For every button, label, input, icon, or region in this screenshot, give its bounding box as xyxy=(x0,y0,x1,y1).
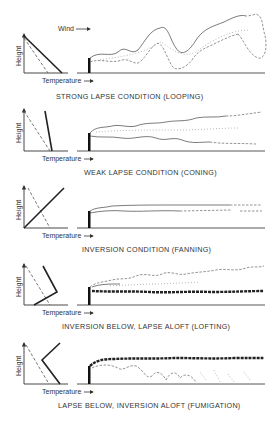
environmental-inversion-line xyxy=(24,188,64,228)
height-axis-label: Height xyxy=(15,200,23,220)
temperature-profile-graph: Height Temperature xyxy=(15,343,93,396)
smokestack xyxy=(88,211,91,228)
plume-scene xyxy=(77,205,265,228)
temperature-profile-graph: Height Temperature xyxy=(15,186,93,240)
plume-scene xyxy=(77,358,265,384)
plume-downward-mixing xyxy=(92,365,196,382)
panel-caption: LAPSE BELOW, INVERSION ALOFT (FUMIGATION… xyxy=(58,401,241,410)
panel-looping: Height Temperature STRONG LAPSE CONDITIO… xyxy=(15,14,266,101)
panel-lofting: Height Temperature INVERSION BELOW, LAPS… xyxy=(15,264,265,331)
plume-lower-edge-dashed xyxy=(180,210,262,211)
panel-fumigation: Height Temperature LAPSE BELOW, INVERSIO… xyxy=(15,343,265,410)
plume-loop xyxy=(238,14,266,58)
height-axis-label: Height xyxy=(15,277,23,297)
panel-caption: STRONG LAPSE CONDITION (LOOPING) xyxy=(56,92,203,101)
temperature-profile-graph: Height Temperature xyxy=(15,109,93,163)
smokestack xyxy=(88,58,91,73)
plume-behavior-diagram: Wind Height Temperature STRONG LAPSE CON… xyxy=(0,0,280,422)
plume-rise xyxy=(92,284,120,287)
temperature-axis-label: Temperature xyxy=(42,155,81,163)
panel-caption: WEAK LAPSE CONDITION (CONING) xyxy=(84,168,217,177)
environmental-profile-line xyxy=(42,343,60,384)
environmental-profile-line xyxy=(34,266,57,305)
smokestack xyxy=(88,287,91,305)
plume-scene xyxy=(77,266,265,305)
plume-scene xyxy=(77,14,266,73)
wind-indicator: Wind xyxy=(58,25,90,32)
smokestack xyxy=(88,366,91,384)
panel-coning: Height Temperature WEAK LAPSE CONDITION … xyxy=(15,109,265,177)
height-axis-label: Height xyxy=(15,356,23,376)
temperature-profile-graph: Height Temperature xyxy=(15,264,93,317)
temperature-axis-label: Temperature xyxy=(42,388,81,396)
plume-interior xyxy=(100,30,250,60)
panel-caption: INVERSION BELOW, LAPSE ALOFT (LOFTING) xyxy=(62,322,230,331)
panel-fanning: Height Temperature INVERSION CONDITION (… xyxy=(15,186,265,254)
panel-caption: INVERSION CONDITION (FANNING) xyxy=(82,245,211,254)
plume-upper-edge xyxy=(90,15,246,58)
temperature-profile-graph: Height Temperature xyxy=(15,34,93,85)
plume-upper-edge xyxy=(90,116,226,133)
plume-upper-boundary xyxy=(90,358,264,366)
plume-upper-edge-dashed xyxy=(226,112,262,116)
plume-interior xyxy=(110,282,200,286)
plume-scene xyxy=(77,112,265,151)
plume-ground-fumigation xyxy=(200,370,250,382)
wind-label: Wind xyxy=(58,25,74,32)
plume-lower-boundary xyxy=(92,291,264,292)
temperature-axis-label: Temperature xyxy=(42,232,81,240)
adiabatic-lapse-line xyxy=(28,188,50,228)
temperature-axis-label: Temperature xyxy=(42,77,81,85)
plume-lower-edge xyxy=(90,211,180,213)
height-axis-label: Height xyxy=(15,123,23,143)
temperature-axis-label: Temperature xyxy=(42,309,81,317)
plume-lower-edge-dashed xyxy=(210,142,256,144)
plume-lower-edge xyxy=(90,136,210,143)
plume-interior xyxy=(96,128,240,132)
environmental-lapse-line xyxy=(24,36,62,73)
height-axis-label: Height xyxy=(15,46,23,66)
